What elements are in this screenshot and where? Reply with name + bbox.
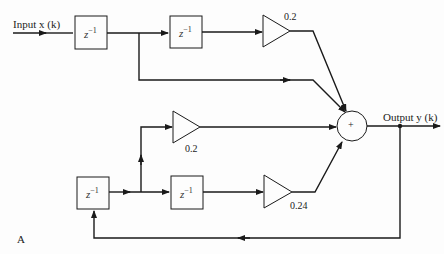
gain-label-bottom: 0.24 [290, 201, 308, 211]
sum-symbol: + [348, 120, 354, 130]
output-label: Output y (k) [383, 112, 437, 123]
gain-label-middle: 0.2 [185, 144, 198, 154]
figure-label: A [17, 234, 25, 245]
gain-label-top: 0.2 [284, 12, 297, 22]
input-label: Input x (k) [13, 19, 60, 30]
delay-label-4: z−1 [180, 186, 193, 200]
delay-label-1: z−1 [84, 26, 97, 40]
delay-label-2: z−1 [179, 25, 192, 39]
block-diagram: Input x (k) Output y (k) z−1 z−1 z−1 z−1… [0, 0, 444, 254]
diagram-lines [0, 0, 444, 254]
delay-label-3: z−1 [86, 186, 99, 200]
